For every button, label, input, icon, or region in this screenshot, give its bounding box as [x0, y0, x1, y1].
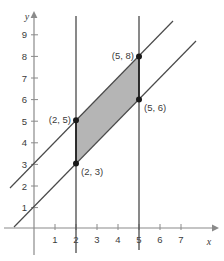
point-label-5-6: (5, 6) [144, 102, 166, 113]
x-axis: 1 2 3 4 5 6 7 x [4, 224, 219, 247]
point-label-2-5: (2, 5) [49, 114, 71, 125]
y-tick-label-9: 9 [22, 29, 27, 40]
y-tick-label-6: 6 [22, 94, 27, 105]
x-tick-label-4: 4 [115, 234, 120, 245]
y-tick-label-1: 1 [22, 202, 27, 213]
point-5-8 [136, 53, 142, 59]
y-axis: 9 8 7 6 5 4 3 2 1 y [22, 11, 38, 255]
x-tick-label-7: 7 [178, 234, 183, 245]
y-axis-arrow [31, 11, 38, 18]
coordinate-plane-figure: 1 2 3 4 5 6 7 x 9 8 7 6 5 [0, 0, 224, 261]
point-5-6 [136, 97, 142, 103]
y-tick-label-3: 3 [22, 159, 27, 170]
y-axis-label: y [24, 11, 30, 22]
x-axis-label: x [206, 236, 212, 247]
y-tick-label-8: 8 [22, 51, 27, 62]
y-tick-label-5: 5 [22, 116, 27, 127]
x-tick-label-1: 1 [52, 234, 57, 245]
x-axis-arrow [212, 225, 219, 232]
point-label-2-3: (2, 3) [81, 166, 103, 177]
y-tick-label-2: 2 [22, 181, 27, 192]
x-tick-label-3: 3 [94, 234, 99, 245]
line-lower-y-eq-x-plus-1 [14, 41, 196, 227]
y-tick-label-4: 4 [22, 137, 27, 148]
x-tick-label-6: 6 [157, 234, 162, 245]
point-2-3 [73, 160, 79, 166]
graph-canvas: 1 2 3 4 5 6 7 x 9 8 7 6 5 [0, 0, 224, 261]
point-label-5-8: (5, 8) [112, 50, 134, 61]
y-tick-label-7: 7 [22, 73, 27, 84]
point-2-5 [73, 117, 79, 123]
